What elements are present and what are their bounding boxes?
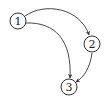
node-2: 2 [84,36,100,52]
edge-1-to-3 [26,23,70,78]
node-2-label: 2 [89,38,96,51]
node-3: 3 [61,79,77,95]
node-3-label: 3 [66,81,73,94]
graph-canvas: 1 2 3 [0,0,104,101]
edge-2-to-3 [76,53,92,82]
node-1-label: 1 [15,15,22,28]
edge-1-to-2 [25,9,89,35]
node-1: 1 [10,13,26,29]
